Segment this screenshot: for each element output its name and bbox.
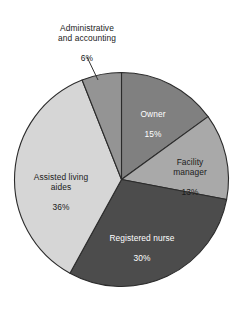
pie-chart-graphic (0, 0, 243, 312)
pie-slices-group (14, 73, 228, 287)
pie-chart: Administrative and accounting 6% Owner 1… (0, 0, 243, 312)
